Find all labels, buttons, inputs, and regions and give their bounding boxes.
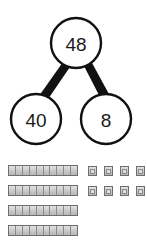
rod-segment [57, 166, 64, 175]
rod-segment [23, 226, 30, 235]
ten-rod[interactable] [8, 225, 78, 236]
rod-segment [44, 186, 51, 195]
unit-cube[interactable] [104, 166, 113, 176]
whole-value: 48 [65, 34, 86, 55]
rod-segment [9, 186, 16, 195]
rod-segment [23, 206, 30, 215]
rod-segment [71, 186, 77, 195]
rod-segment [44, 226, 51, 235]
unit-cube[interactable] [120, 166, 129, 176]
rod-segment [37, 166, 44, 175]
rod-segment [9, 206, 16, 215]
rod-segment [57, 226, 64, 235]
rod-segment [37, 226, 44, 235]
rod-segment [44, 166, 51, 175]
rod-segment [30, 166, 37, 175]
rod-segment [30, 186, 37, 195]
rod-segment [16, 206, 23, 215]
rod-segment [64, 166, 71, 175]
rod-segment [30, 206, 37, 215]
rod-segment [16, 226, 23, 235]
part-ones-value: 8 [101, 110, 112, 131]
rod-segment [30, 226, 37, 235]
rod-segment [16, 166, 23, 175]
ten-rod[interactable] [8, 165, 78, 176]
rod-segment [37, 186, 44, 195]
rod-segment [71, 206, 77, 215]
rod-segment [44, 206, 51, 215]
rod-segment [64, 186, 71, 195]
rod-segment [71, 166, 77, 175]
unit-cube[interactable] [88, 186, 97, 196]
bond-node-whole[interactable]: 48 [51, 18, 101, 68]
rod-segment [57, 206, 64, 215]
rod-segment [50, 206, 57, 215]
rod-segment [64, 226, 71, 235]
unit-cube[interactable] [120, 186, 129, 196]
rod-segment [50, 226, 57, 235]
rod-segment [9, 166, 16, 175]
bond-node-part-ones[interactable]: 8 [81, 94, 131, 144]
rod-segment [50, 166, 57, 175]
unit-cube[interactable] [136, 186, 145, 196]
ten-rod[interactable] [8, 205, 78, 216]
rod-segment [50, 186, 57, 195]
rod-segment [16, 186, 23, 195]
ten-rod[interactable] [8, 185, 78, 196]
number-bond-worksheet: 48 40 8 [0, 0, 147, 250]
unit-cube[interactable] [88, 166, 97, 176]
unit-cube[interactable] [104, 186, 113, 196]
rod-segment [23, 186, 30, 195]
number-bond-diagram: 48 40 8 [0, 0, 147, 160]
rod-segment [9, 226, 16, 235]
rod-segment [64, 206, 71, 215]
part-tens-value: 40 [25, 110, 46, 131]
rod-segment [57, 186, 64, 195]
bond-node-part-tens[interactable]: 40 [11, 94, 61, 144]
rod-segment [71, 226, 77, 235]
rod-segment [37, 206, 44, 215]
rod-segment [23, 166, 30, 175]
base-ten-blocks [0, 160, 147, 250]
unit-cube[interactable] [136, 166, 145, 176]
